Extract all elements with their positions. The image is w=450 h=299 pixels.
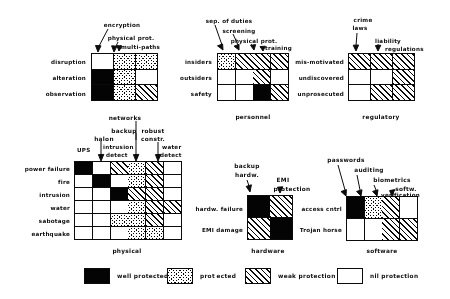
legend: well protected prot ected weak protectio… (0, 262, 450, 292)
legend-item-well-protected: well protected (84, 268, 168, 284)
arrow-software-group (0, 0, 450, 299)
matrix-software (346, 196, 418, 241)
legend-label-weak-protection: weak protection (278, 273, 336, 279)
legend-item-nil-protection: nil protection (337, 268, 418, 284)
legend-swatch-weak-protection (245, 268, 271, 284)
legend-swatch-nil-protection (337, 268, 363, 284)
row-label-access-cntrl: access cntrl (302, 206, 342, 213)
cell-software-r0c1[interactable] (365, 197, 382, 218)
cell-software-r1c0[interactable] (347, 219, 364, 240)
legend-label-well-protected: well protected (117, 273, 168, 279)
figure-canvas: encryption physical prot. multi-paths di… (0, 0, 450, 299)
legend-swatch-protected (167, 268, 193, 284)
row-label-trojan-horse: Trojan horse (300, 227, 342, 234)
cell-software-r0c0[interactable] (347, 197, 364, 218)
caption-software: software (366, 248, 397, 254)
legend-label-protected: prot ected (200, 273, 236, 279)
cell-software-r1c3[interactable] (400, 219, 417, 240)
legend-item-weak-protection: weak protection (245, 268, 336, 284)
legend-swatch-well-protected (84, 268, 110, 284)
cell-software-r1c2[interactable] (382, 219, 399, 240)
cell-software-r0c3[interactable] (400, 197, 417, 218)
legend-item-protected: prot ected (167, 268, 236, 284)
legend-label-nil-protection: nil protection (370, 273, 418, 279)
cell-software-r1c1[interactable] (365, 219, 382, 240)
cell-software-r0c2[interactable] (382, 197, 399, 218)
